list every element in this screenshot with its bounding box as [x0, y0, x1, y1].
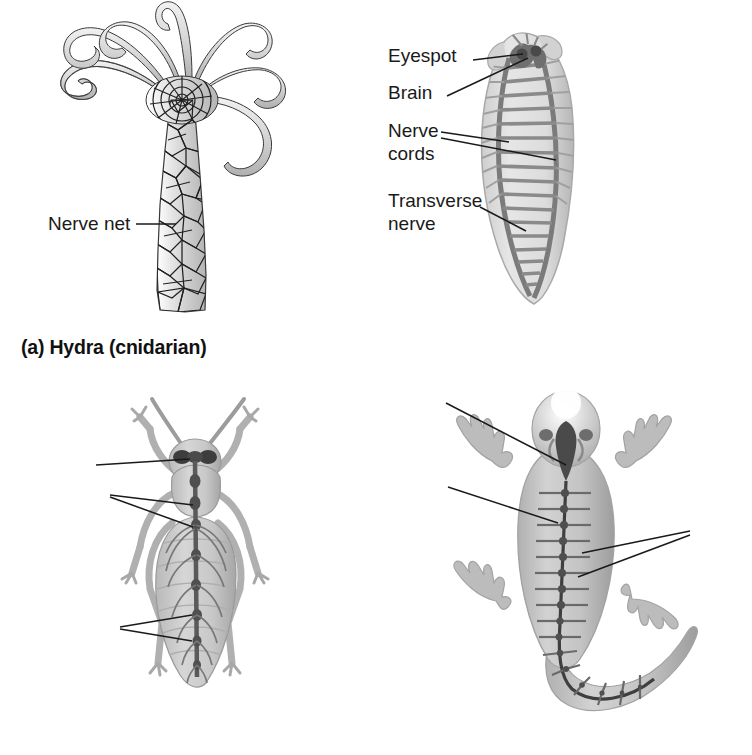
salamander-eye-right: [579, 429, 593, 441]
salamander-illustration: [376, 377, 752, 717]
salamander-eye-left: [539, 429, 553, 441]
label-transverse-nerve-line2: nerve: [388, 212, 436, 235]
label-nerve-cords-line1: Nerve: [388, 119, 439, 142]
label-nerve-net: Nerve net: [48, 212, 130, 235]
panel-hydra: Nerve net (a) Hydra (cnidarian): [0, 0, 376, 377]
label-brain: Brain: [388, 81, 432, 104]
panel-insect: Brain Ventral nerve cord Segmental gangl…: [0, 377, 376, 754]
eyespot-right: [531, 46, 542, 57]
panel-salamander: Brain Spinal cord (dorsal nerve cord) Se…: [376, 377, 752, 754]
insect-illustration: [0, 377, 376, 717]
panel-planarian: Eyespot Brain Nerve cords Transverse ner…: [376, 0, 752, 377]
ganglion: [190, 474, 201, 488]
hydra-illustration: [0, 0, 376, 340]
snout-highlight: [551, 387, 581, 419]
label-nerve-cords-line2: cords: [388, 142, 434, 165]
figure-nervous-system-organization: Nerve net (a) Hydra (cnidarian): [0, 0, 752, 755]
label-transverse-nerve-line1: Transverse: [388, 189, 482, 212]
ganglion: [190, 496, 201, 510]
caption-hydra: (a) Hydra (cnidarian): [21, 336, 206, 359]
label-eyespot: Eyespot: [388, 44, 457, 67]
